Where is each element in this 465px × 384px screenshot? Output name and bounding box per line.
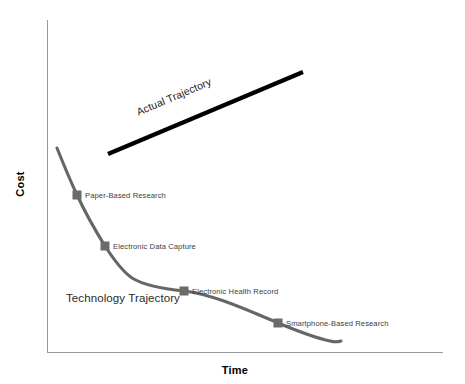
marker-paper-based-research xyxy=(73,191,82,200)
point-label-paper-based-research: Paper-Based Research xyxy=(85,191,166,200)
point-label-electronic-data-capture: Electronic Data Capture xyxy=(113,242,196,251)
point-label-smartphone-based-research: Smartphone-Based Research xyxy=(286,319,389,328)
technology-trajectory-curve xyxy=(57,148,341,342)
point-label-electronic-health-record: Electronic Health Record xyxy=(192,287,278,296)
y-axis-title: Cost xyxy=(14,164,26,204)
chart-plot-area xyxy=(0,0,465,384)
cost-vs-time-chart: Cost Time Actual Trajectory Technology T… xyxy=(0,0,465,384)
marker-electronic-data-capture xyxy=(101,242,110,251)
technology-trajectory-label: Technology Trajectory xyxy=(66,292,180,304)
x-axis-title: Time xyxy=(190,364,280,376)
marker-smartphone-based-research xyxy=(274,319,283,328)
marker-electronic-health-record xyxy=(180,287,189,296)
